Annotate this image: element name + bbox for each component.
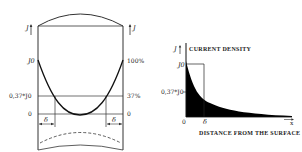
level-zero-left-label: 0 xyxy=(28,110,32,117)
left-axis-symbol: J xyxy=(24,24,29,32)
level-zero-right-label: 0 xyxy=(127,110,131,117)
current-density-area xyxy=(186,61,292,117)
conductor-cross-section-diagram: J J J0 0,37*J0 0 100% 37% 0 δ δ xyxy=(9,14,144,150)
skin-effect-figure: J J J0 0,37*J0 0 100% 37% 0 δ δ J CURREN… xyxy=(0,0,302,152)
conductor-bottom-arc xyxy=(38,145,123,150)
current-density-decay-chart: J CURRENT DENSITY J0 0,37*J0 0 δ x DISTA… xyxy=(161,43,300,136)
y-axis-symbol: J xyxy=(172,45,177,53)
depth-right-label: δ xyxy=(112,116,116,124)
arrow-up-icon xyxy=(179,45,181,48)
arrow-up-icon xyxy=(30,24,33,27)
conductor-bottom-dashed-arc xyxy=(40,133,121,144)
arrow-up-icon xyxy=(129,24,132,27)
level-top-right-label: 100% xyxy=(127,57,144,64)
x-axis-symbol: x xyxy=(290,119,294,126)
chart-title: CURRENT DENSITY xyxy=(189,46,252,52)
depth-tick-label: δ xyxy=(203,118,207,126)
level-mid-label: 0,37*J0 xyxy=(161,88,184,96)
level-mid-right-label: 37% xyxy=(127,92,141,99)
level-mid-left-label: 0,37*J0 xyxy=(9,92,32,100)
current-density-curve xyxy=(38,60,123,115)
depth-left-label: δ xyxy=(44,116,48,124)
level-top-left-label: J0 xyxy=(26,57,35,65)
level-top-label: J0 xyxy=(176,61,185,69)
right-axis-symbol: J xyxy=(131,24,136,32)
x-axis-label: DISTANCE FROM THE SURFACE xyxy=(199,130,300,136)
conductor-top-arc xyxy=(38,14,123,26)
origin-label: 0 xyxy=(182,118,186,125)
